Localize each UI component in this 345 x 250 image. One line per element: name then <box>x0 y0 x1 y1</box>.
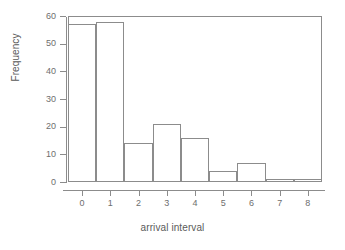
x-axis-tick <box>167 191 168 196</box>
bar-series <box>68 16 322 182</box>
y-axis-tick-label: 40 <box>0 67 56 76</box>
bar <box>266 179 294 182</box>
y-axis-tick-label: 10 <box>0 150 56 159</box>
y-axis-tick-label: 0 <box>0 178 56 187</box>
y-axis-tick-label: 30 <box>0 95 56 104</box>
x-axis-tick-label: 6 <box>236 199 266 208</box>
x-axis-tick-label: 4 <box>180 199 210 208</box>
x-axis-tick <box>251 191 252 196</box>
x-axis-tick-label: 1 <box>95 199 125 208</box>
x-axis-tick <box>195 191 196 196</box>
bar <box>153 124 181 182</box>
y-axis-tick <box>60 71 66 72</box>
y-axis-line <box>66 17 67 183</box>
y-axis-tick <box>60 182 66 183</box>
x-axis-tick <box>223 191 224 196</box>
y-axis-tick <box>60 44 66 45</box>
y-axis-tick-label: 50 <box>0 39 56 48</box>
x-axis-tick <box>280 191 281 196</box>
y-axis-tick <box>60 16 66 17</box>
x-axis-tick <box>82 191 83 196</box>
y-axis-tick-label: 60 <box>0 12 56 21</box>
x-axis-tick-label: 8 <box>293 199 323 208</box>
y-axis-tick <box>60 127 66 128</box>
x-axis-line <box>63 190 325 191</box>
y-axis-tick <box>60 99 66 100</box>
histogram-figure: 0102030405060 012345678 arrival interval… <box>0 0 345 250</box>
x-axis-title: arrival interval <box>0 222 345 233</box>
bar <box>96 22 124 182</box>
bar <box>68 24 96 182</box>
bar <box>294 179 322 182</box>
y-axis-title: Frequency <box>10 3 21 113</box>
x-axis-tick <box>110 191 111 196</box>
bar <box>237 163 265 182</box>
x-axis-tick <box>308 191 309 196</box>
x-axis-tick-label: 3 <box>152 199 182 208</box>
x-axis-tick-label: 2 <box>124 199 154 208</box>
y-axis-tick-label: 20 <box>0 122 56 131</box>
bar <box>209 171 237 182</box>
x-axis-tick-label: 0 <box>67 199 97 208</box>
x-axis-tick-label: 5 <box>208 199 238 208</box>
bar <box>124 143 152 182</box>
y-axis-tick <box>60 154 66 155</box>
x-axis-tick <box>139 191 140 196</box>
x-axis-tick-label: 7 <box>265 199 295 208</box>
bar <box>181 138 209 182</box>
